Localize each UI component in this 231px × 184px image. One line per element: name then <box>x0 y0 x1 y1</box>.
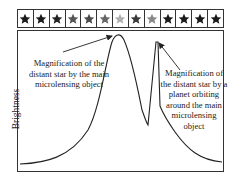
annotation-main-lens: Magnification of the distant star by the… <box>26 58 112 90</box>
annotation-planet: Magnification of the distant star by a p… <box>160 68 228 132</box>
arrow-main <box>63 36 112 52</box>
arrow-planet <box>159 43 180 70</box>
y-axis-label: Brightness <box>11 79 21 139</box>
